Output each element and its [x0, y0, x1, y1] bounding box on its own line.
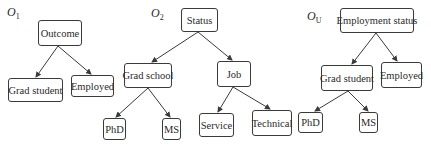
- edge-job-technical: [233, 87, 270, 109]
- edge-status-grad-school: [152, 32, 198, 62]
- tree-label-ou: OU: [307, 9, 321, 25]
- node-grad-school: Grad school: [124, 63, 172, 88]
- node-employment-status: Employment status: [340, 8, 414, 33]
- edge-outcome-employed: [58, 46, 91, 74]
- node-ms-u: MS: [359, 112, 378, 133]
- node-employed: Employed: [71, 75, 114, 97]
- tree-label-o1: O1: [7, 5, 20, 21]
- edge-grad-school-ms: [148, 88, 170, 117]
- node-technical: Technical: [252, 110, 292, 136]
- node-grad-student-u: Grad student: [321, 65, 373, 91]
- tree-label-o2: O2: [151, 6, 164, 22]
- node-phd: PhD: [103, 118, 126, 140]
- node-grad-student: Grad student: [8, 78, 63, 102]
- node-employed-u: Employed: [381, 62, 422, 88]
- node-ms: MS: [162, 118, 181, 140]
- edge-employment-status-grad-student: [352, 33, 376, 64]
- edge-employment-status-employed: [376, 33, 397, 61]
- node-job: Job: [217, 61, 251, 87]
- edge-status-job: [198, 32, 232, 60]
- node-outcome: Outcome: [38, 20, 82, 46]
- edge-grad-student-phd: [315, 91, 348, 111]
- edge-job-service: [218, 87, 233, 112]
- edge-outcome-grad-student: [36, 46, 58, 77]
- node-status: Status: [181, 8, 218, 32]
- edge-grad-school-phd: [116, 88, 148, 117]
- node-phd-u: PhD: [298, 112, 323, 133]
- edge-grad-student-ms: [348, 91, 368, 111]
- node-service: Service: [199, 113, 234, 137]
